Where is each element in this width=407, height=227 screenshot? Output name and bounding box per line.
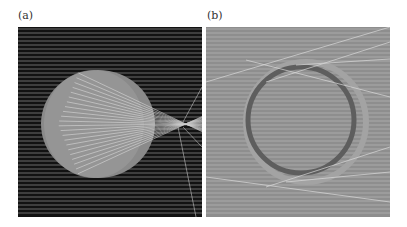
panel-a-ray-tracing-image (18, 27, 202, 217)
panel-a-label: (a) (18, 9, 33, 22)
panel-b-ray-tracing-image (206, 27, 390, 217)
panel-b-label: (b) (207, 9, 223, 22)
